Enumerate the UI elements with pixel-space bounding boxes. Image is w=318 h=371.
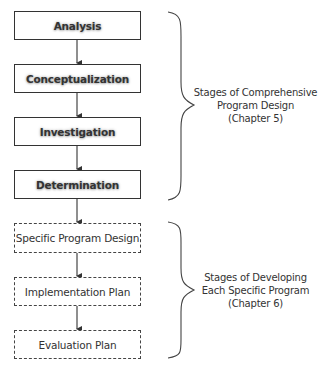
stage-implementation-plan: Implementation Plan bbox=[14, 277, 141, 306]
stage-conceptualization: Conceptualization bbox=[14, 64, 141, 93]
group-label-comprehensive: Stages of Comprehensive Program Design (… bbox=[193, 86, 318, 125]
brace-specific-icon bbox=[168, 222, 194, 358]
stage-evaluation-plan: Evaluation Plan bbox=[14, 330, 141, 359]
stage-label: Conceptualization bbox=[26, 73, 129, 85]
group-label-line: Program Design bbox=[193, 99, 318, 112]
stage-analysis: Analysis bbox=[14, 11, 141, 40]
stage-determination: Determination bbox=[14, 170, 141, 199]
group-label-specific: Stages of Developing Each Specific Progr… bbox=[193, 271, 318, 310]
group-label-line: Stages of Comprehensive bbox=[193, 86, 318, 99]
stage-label: Evaluation Plan bbox=[38, 339, 116, 351]
stage-label: Analysis bbox=[54, 20, 102, 32]
stage-investigation: Investigation bbox=[14, 117, 141, 146]
stage-label: Investigation bbox=[40, 126, 116, 138]
stage-label: Specific Program Design bbox=[16, 232, 140, 244]
stage-label: Determination bbox=[36, 179, 119, 191]
brace-comprehensive-icon bbox=[168, 12, 194, 200]
group-label-line: (Chapter 6) bbox=[193, 297, 318, 310]
group-label-line: (Chapter 5) bbox=[193, 112, 318, 125]
group-label-line: Each Specific Program bbox=[193, 284, 318, 297]
group-label-line: Stages of Developing bbox=[193, 271, 318, 284]
stage-label: Implementation Plan bbox=[25, 286, 130, 298]
stage-specific-program-design: Specific Program Design bbox=[14, 223, 141, 253]
